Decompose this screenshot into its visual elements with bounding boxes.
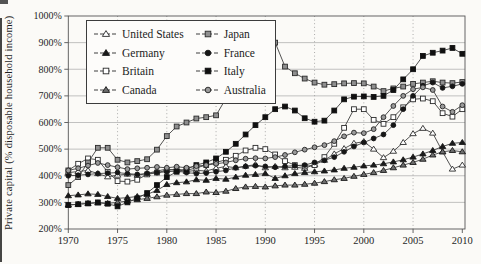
legend-label-canada: Canada [122, 84, 156, 96]
britain-marker-icon [94, 65, 118, 77]
legend-label-britain: Britain [122, 65, 154, 77]
legend-item-canada: Canada [94, 81, 184, 100]
x-tick-label: 1975 [107, 235, 128, 246]
legend-item-germany: Germany [94, 44, 184, 63]
y-tick-label: 600% [38, 117, 61, 128]
y-tick-label: 500% [38, 143, 61, 154]
y-tick-label: 700% [38, 90, 61, 101]
y-tick-label: 400% [38, 170, 61, 181]
legend-item-united-states: United States [94, 25, 184, 44]
legend-item-britain: Britain [94, 62, 184, 81]
y-tick-label: 1000% [33, 10, 61, 21]
legend-label-japan: Japan [224, 28, 250, 40]
canada-marker-icon [94, 84, 118, 96]
x-tick-label: 1970 [58, 235, 79, 246]
x-tick-label: 2000 [353, 235, 374, 246]
legend-label-united-states: United States [122, 28, 184, 40]
legend-item-italy: Italy [196, 62, 266, 81]
x-tick-label: 1980 [156, 235, 177, 246]
x-tick-label: 2010 [452, 235, 473, 246]
japan-marker-icon [196, 28, 220, 40]
france-marker-icon [196, 47, 220, 59]
legend-item-japan: Japan [196, 25, 266, 44]
x-tick-label: 1990 [255, 235, 276, 246]
legend-label-germany: Germany [122, 47, 165, 59]
legend-label-italy: Italy [224, 65, 245, 77]
y-tick-label: 200% [38, 223, 61, 234]
y-tick-label: 900% [38, 37, 61, 48]
y-tick-label: 300% [38, 197, 61, 208]
x-tick-label: 2005 [403, 235, 424, 246]
legend-item-australia: Australia [196, 81, 266, 100]
private-capital-chart: Private capital (% disposable household … [0, 0, 481, 264]
legend-box: United StatesGermanyBritainCanadaJapanFr… [86, 20, 276, 104]
legend-label-australia: Australia [224, 84, 266, 96]
australia-marker-icon [196, 84, 220, 96]
legend-item-france: France [196, 44, 266, 63]
legend-label-france: France [224, 47, 255, 59]
x-tick-label: 1985 [206, 235, 227, 246]
y-tick-label: 800% [38, 64, 61, 75]
italy-marker-icon [196, 65, 220, 77]
x-tick-label: 1995 [304, 235, 325, 246]
germany-marker-icon [94, 47, 118, 59]
united-states-marker-icon [94, 28, 118, 40]
